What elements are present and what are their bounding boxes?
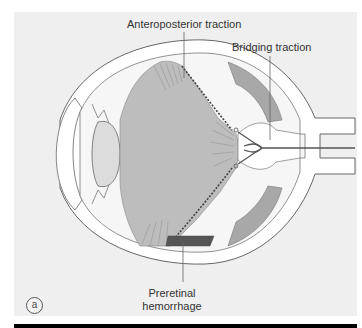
label-hemorrhage-line1: Preretinal <box>132 287 212 300</box>
preretinal-hemorrhage <box>166 236 214 246</box>
bottom-divider <box>14 324 357 328</box>
label-preretinal-hemorrhage: Preretinal hemorrhage <box>132 287 212 313</box>
label-anteroposterior-traction: Anteroposterior traction <box>127 18 241 31</box>
lens <box>92 121 120 186</box>
label-hemorrhage-line2: hemorrhage <box>132 300 212 313</box>
panel-letter-badge: a <box>26 297 43 314</box>
label-bridging-traction: Bridging traction <box>232 41 312 54</box>
